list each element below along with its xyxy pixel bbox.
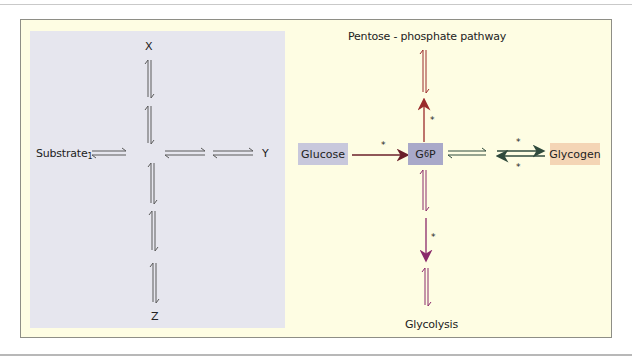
metabolite-y-label: Y	[262, 147, 269, 160]
glycogen-label: Glycogen	[549, 148, 601, 161]
eq-arrow-z-3	[150, 263, 159, 303]
eq-arrow-y-1	[165, 148, 205, 158]
eq-arrow-z-2	[149, 211, 158, 251]
regulated-marker-glycogen-bottom: *	[516, 162, 520, 172]
g6p-box: G6P	[408, 143, 443, 165]
eq-arrow-glycolysis-1	[420, 170, 429, 211]
pathway-diagram	[0, 0, 632, 358]
left-equilibrium-arrows	[92, 60, 253, 303]
glycogen-box: Glycogen	[550, 143, 600, 165]
metabolite-substrate-label: Substrate1	[36, 147, 92, 161]
metabolite-x-label: X	[145, 40, 152, 53]
eq-arrow-glycolysis-2	[422, 268, 431, 306]
regulated-marker-glucose: *	[381, 140, 385, 150]
substrate-label-text: Substrate	[36, 147, 88, 160]
eq-arrow-substrate	[92, 148, 126, 158]
glucose-label: Glucose	[301, 148, 345, 161]
eq-arrow-x-1	[145, 60, 154, 98]
pentose-phosphate-label: Pentose - phosphate pathway	[348, 30, 506, 43]
metabolite-z-label: Z	[151, 310, 158, 323]
regulated-marker-glycolysis: *	[431, 232, 435, 242]
g6p-label-suffix: P	[429, 148, 436, 161]
glucose-box: Glucose	[298, 143, 348, 165]
bottom-rule	[0, 354, 632, 356]
eq-arrow-pentose	[420, 50, 429, 93]
g6p-label-main: G	[415, 148, 424, 161]
regulated-marker-glycogen-top: *	[516, 137, 520, 147]
eq-arrow-z-1	[148, 163, 157, 204]
substrate-subscript: 1	[88, 152, 93, 161]
eq-arrow-g6p-glycogen	[448, 148, 486, 158]
regulated-marker-pentose: *	[430, 115, 434, 125]
glycolysis-label: Glycolysis	[405, 318, 458, 331]
eq-arrow-y-2	[213, 148, 253, 158]
eq-arrow-x-2	[145, 106, 154, 144]
